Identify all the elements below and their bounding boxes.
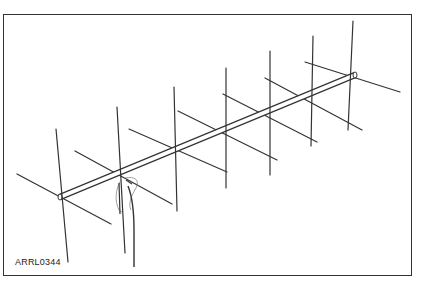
boom-edge-upper bbox=[59, 73, 354, 195]
figure-id-label: ARRL0344 bbox=[15, 257, 61, 267]
yagi-antenna-drawing bbox=[0, 0, 422, 284]
horizontal-elements bbox=[17, 62, 400, 224]
boom-end-cap-rear bbox=[353, 72, 357, 78]
feedline-coax bbox=[116, 177, 137, 267]
horizontal-element-4 bbox=[178, 111, 277, 160]
vertical-elements bbox=[56, 21, 353, 262]
